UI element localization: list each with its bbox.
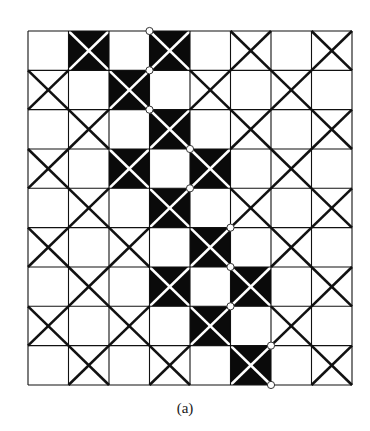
cross-cell	[271, 149, 312, 188]
cross-cell	[109, 228, 150, 267]
black-cross-cell	[150, 267, 191, 306]
vertex-marker	[267, 381, 274, 388]
black-cross-cell	[190, 228, 231, 267]
cross-cell	[28, 306, 69, 345]
cross-cell	[312, 188, 353, 227]
vertex-marker	[227, 224, 234, 231]
black-cross-cell	[109, 149, 150, 188]
black-cross-cell	[69, 31, 110, 70]
black-cross-cell	[231, 267, 272, 306]
cross-cell	[271, 306, 312, 345]
cross-cell	[231, 188, 272, 227]
cross-cell	[271, 228, 312, 267]
cross-cell	[28, 149, 69, 188]
black-cross-cell	[231, 346, 272, 385]
cross-cell	[69, 267, 110, 306]
cross-cell	[312, 110, 353, 149]
black-cross-cell	[109, 70, 150, 109]
figure-caption: (a)	[0, 400, 370, 417]
cross-cell	[312, 346, 353, 385]
cross-cell	[231, 31, 272, 70]
cross-cell	[190, 70, 231, 109]
cross-cell	[69, 188, 110, 227]
gridlines-layer	[28, 31, 352, 385]
cross-cell	[231, 110, 272, 149]
black-cross-cell	[190, 306, 231, 345]
cross-cell	[69, 346, 110, 385]
cross-cell	[312, 267, 353, 306]
black-cross-cell	[150, 110, 191, 149]
vertex-marker	[186, 145, 193, 152]
cross-cell	[109, 306, 150, 345]
vertex-marker	[227, 263, 234, 270]
tiling-diagram: (a)	[0, 0, 370, 431]
cross-cell	[28, 228, 69, 267]
vertex-marker	[146, 67, 153, 74]
vertex-marker	[146, 27, 153, 34]
black-cross-cell	[150, 31, 191, 70]
vertex-marker	[186, 185, 193, 192]
vertex-marker	[146, 106, 153, 113]
cross-cell	[312, 31, 353, 70]
cross-cell	[69, 110, 110, 149]
cross-cell	[150, 346, 191, 385]
black-cross-cell	[150, 188, 191, 227]
vertex-marker	[227, 303, 234, 310]
black-cross-cell	[190, 149, 231, 188]
cross-cell	[271, 70, 312, 109]
grid-svg	[0, 0, 370, 431]
vertex-marker	[267, 342, 274, 349]
cross-cell	[28, 70, 69, 109]
